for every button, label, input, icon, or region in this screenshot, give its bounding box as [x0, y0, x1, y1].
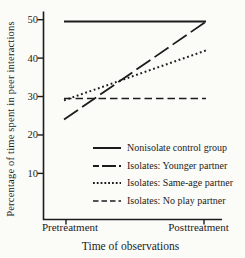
x-category-posttreatment: Posttreatment — [165, 221, 232, 234]
series-line-2 — [64, 50, 206, 100]
legend-label: Nonisolate control group — [127, 142, 227, 154]
series-line-1 — [64, 22, 206, 120]
legend-item-nonisolate-control: Nonisolate control group — [92, 140, 233, 158]
legend-item-same-age-partner: Isolates: Same-age partner — [92, 175, 233, 193]
legend-label: Isolates: Same-age partner — [127, 177, 233, 189]
legend-line-dashed-icon — [92, 195, 122, 207]
legend-line-dotted-icon — [92, 177, 122, 189]
legend-line-solid-icon — [92, 142, 122, 154]
line-chart-figure: 50 40 30 20 10 Percentage of time spent … — [0, 0, 245, 258]
series-lines — [64, 22, 206, 120]
y-axis-title: Percentage of time spent in peer interac… — [4, 14, 18, 224]
legend-label: Isolates: No play partner — [127, 195, 226, 207]
legend-line-longdash-icon — [92, 160, 122, 172]
legend: Nonisolate control group Isolates: Young… — [92, 140, 233, 210]
x-axis-title: Time of observations — [43, 239, 218, 253]
legend-item-younger-partner: Isolates: Younger partner — [92, 157, 233, 175]
x-category-pretreatment: Pretreatment — [37, 221, 103, 234]
legend-item-no-play-partner: Isolates: No play partner — [92, 192, 233, 210]
y-axis-ticks — [38, 20, 44, 174]
legend-label: Isolates: Younger partner — [127, 160, 227, 172]
